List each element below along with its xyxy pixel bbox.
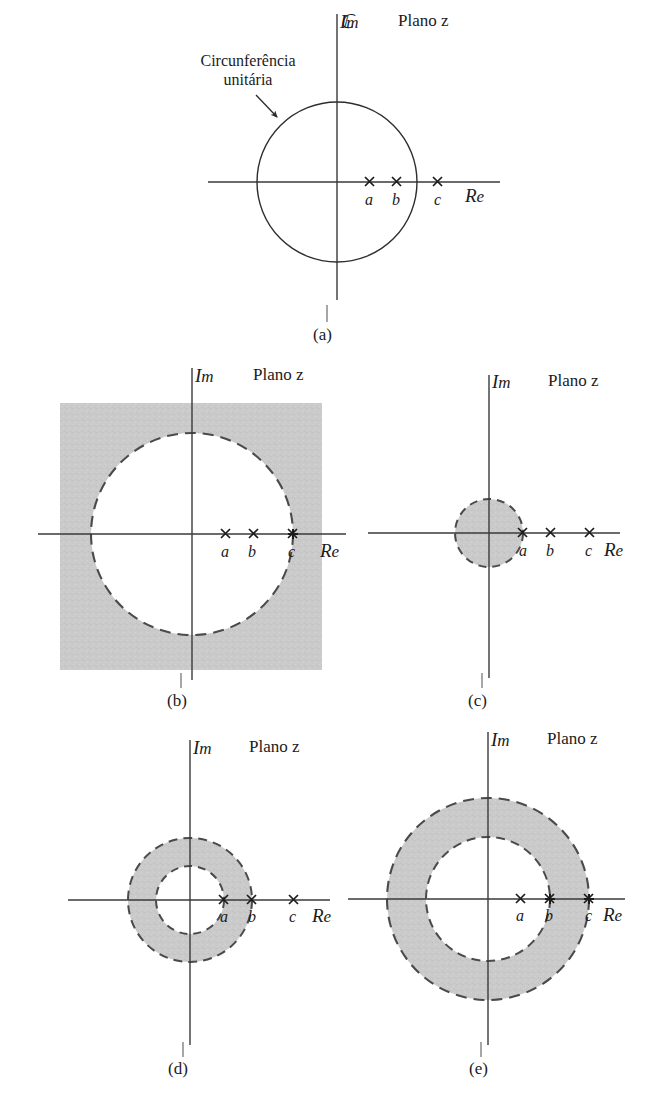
callout-line-2: unitária [178,71,318,90]
roc-figure: ℂ Im Plano z Re Circunferência unitária … [0,0,660,1108]
plane-label-d: Plano z [249,738,300,755]
panel-caption-d: (d) [168,1060,188,1077]
pole-label-a-panel-a: a [365,192,373,208]
panel-caption-c: (c) [468,692,487,709]
axis-label-re-e: Re [603,905,622,924]
panel-caption-e: (e) [469,1060,488,1077]
axis-label-im-text: Im [340,12,359,31]
axis-label-im-d: Im [193,738,212,757]
plane-label-e: Plano z [547,730,598,747]
axis-label-re-c: Re [604,540,623,559]
axis-label-im-c: Im [492,372,511,391]
plane-label-b: Plano z [253,366,304,383]
pole-label-a-panel-d: a [220,909,228,925]
axis-label-re-a: Re [465,186,484,205]
pole-label-b-panel-b: b [248,544,256,560]
pole-label-b-panel-e: b [545,908,553,924]
axis-label-im-b: Im [195,366,214,385]
pole-label-c-panel-c: c [585,543,592,559]
pole-label-b-panel-c: b [546,543,554,559]
panel-caption-a: (a) [313,326,332,343]
plane-label-c: Plano z [548,372,599,389]
pole-label-a-panel-b: a [221,544,229,560]
pole-label-c-panel-a: c [434,192,441,208]
pole-label-a-panel-c: a [519,543,527,559]
plane-label-a: Plano z [398,12,449,29]
pole-label-a-panel-e: a [516,908,524,924]
unit-circle-callout: Circunferência unitária [178,52,318,90]
pole-label-c-panel-b: c [288,544,295,560]
pole-label-b-panel-a: b [392,192,400,208]
pole-label-b-panel-d: b [248,909,256,925]
callout-line-1: Circunferência [178,52,318,71]
axis-label-im-e: Im [491,730,510,749]
pole-label-c-panel-e: c [585,908,592,924]
panel-caption-b: (b) [167,692,187,709]
axis-label-re-d: Re [312,906,331,925]
axis-label-re-b: Re [320,541,339,560]
pole-label-c-panel-d: c [289,909,296,925]
